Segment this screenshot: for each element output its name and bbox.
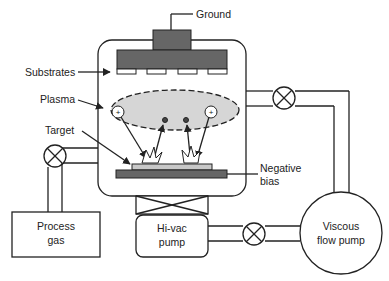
hivac-pump-label: Hi-vac: [157, 222, 187, 234]
negative-bias-label: Negative: [260, 162, 302, 174]
sputtering-diagram: Ground Substrates Plasma + + Target Nega…: [0, 0, 389, 281]
process-gas-label-2: gas: [48, 234, 65, 246]
substrate-2: [147, 69, 166, 74]
viscous-pump-label: Viscous: [323, 220, 360, 232]
substrates-label: Substrates: [25, 66, 75, 78]
substrate-3: [178, 69, 197, 74]
process-gas-label: Process: [37, 220, 75, 232]
viscous-flow-pump: [300, 192, 382, 274]
substrate-1: [117, 69, 136, 74]
substrate-holder: [117, 50, 227, 69]
ground-label: Ground: [196, 8, 231, 20]
viscous-pump-label-2: flow pump: [317, 234, 365, 246]
impact-splash-right: [182, 146, 200, 163]
impact-splash-left: [142, 147, 162, 163]
hivac-pump-label-2: pump: [159, 236, 185, 248]
plasma-cloud: [111, 90, 239, 130]
target-label: Target: [45, 124, 74, 136]
ground-connector: [153, 30, 191, 50]
ion-right-symbol: +: [209, 108, 214, 117]
sputtered-atom-1: [163, 118, 168, 123]
substrate-4: [208, 69, 227, 74]
cathode-plate: [116, 170, 227, 178]
plasma-pointer: [78, 100, 103, 108]
sputtered-atom-2: [184, 118, 189, 123]
plasma-label: Plasma: [40, 93, 75, 105]
ion-left-symbol: +: [116, 108, 121, 117]
target-plate: [132, 164, 212, 170]
negative-bias-label-2: bias: [260, 175, 279, 187]
